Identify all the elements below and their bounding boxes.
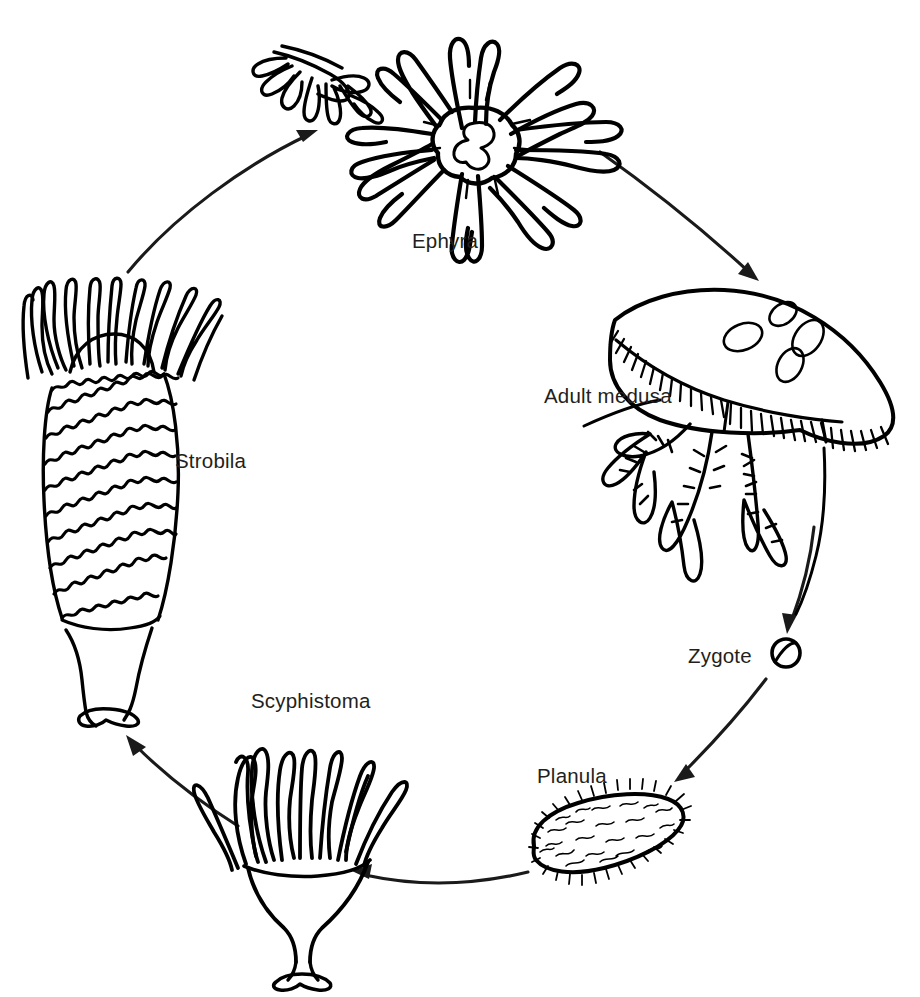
life-cycle-diagram: Ephyra [0, 0, 920, 997]
label-planula: Planula [537, 764, 607, 787]
label-ephyra: Ephyra [412, 229, 479, 252]
label-strobila: Strobila [175, 449, 247, 472]
label-scyphistoma: Scyphistoma [251, 689, 371, 712]
diagram-canvas: Ephyra [0, 0, 920, 997]
label-zygote: Zygote [688, 644, 752, 667]
label-adult-medusa: Adult medusa [544, 384, 672, 407]
diagram-background [0, 0, 920, 997]
